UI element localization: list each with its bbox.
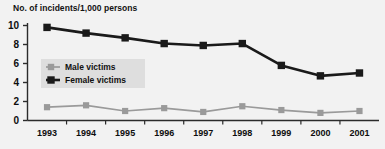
data-point-1999 (278, 62, 285, 69)
data-point-1995 (122, 108, 128, 114)
legend-label-female: Female victims (65, 76, 126, 85)
legend-label-male: Male victims (65, 63, 116, 72)
data-point-1998 (239, 40, 246, 47)
data-point-1997 (200, 109, 206, 115)
data-point-1997 (200, 42, 207, 49)
data-point-2000 (317, 72, 324, 79)
data-point-1998 (239, 103, 245, 109)
data-point-2001 (356, 108, 362, 114)
series-male-victims (44, 102, 363, 116)
data-point-1996 (160, 40, 167, 47)
data-point-1999 (278, 107, 284, 113)
data-point-1994 (83, 102, 89, 108)
data-point-1994 (82, 29, 89, 36)
data-point-1993 (44, 104, 50, 110)
data-point-1996 (161, 105, 167, 111)
data-point-1993 (43, 24, 50, 31)
data-point-1995 (121, 34, 128, 41)
data-point-2000 (317, 110, 323, 116)
chart-container: No. of incidents/1,000 persons 0246810 1… (0, 0, 385, 149)
data-point-2001 (356, 69, 363, 76)
